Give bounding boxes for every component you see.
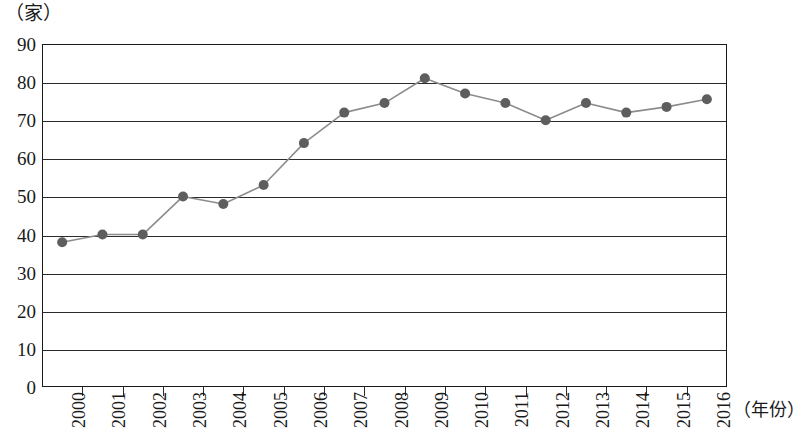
x-axis-tick-label: 2001 — [110, 392, 128, 428]
y-axis-tick-label: 60 — [0, 149, 36, 168]
plot-area — [42, 44, 727, 387]
x-axis-tick-label: 2014 — [634, 392, 652, 428]
y-axis-tick-label: 10 — [0, 339, 36, 358]
x-axis-tick-label: 2010 — [473, 392, 491, 428]
x-axis-tick-label: 2004 — [231, 392, 249, 428]
gridline — [43, 197, 726, 198]
x-axis-tick-label: 2012 — [554, 392, 572, 428]
x-axis-tick-label: 2011 — [513, 392, 531, 427]
x-axis-tick-label: 2005 — [272, 392, 290, 428]
gridline — [43, 83, 726, 84]
x-axis-tick-label: 2013 — [594, 392, 612, 428]
x-axis-tick-label: 2002 — [151, 392, 169, 428]
y-axis-tick-label: 70 — [0, 111, 36, 130]
x-axis-tick-label: 2000 — [70, 392, 88, 428]
gridline — [43, 312, 726, 313]
y-axis-tick-label: 30 — [0, 263, 36, 282]
x-axis-tick-label: 2003 — [191, 392, 209, 428]
gridline — [43, 159, 726, 160]
x-axis-tick-label: 2006 — [312, 392, 330, 428]
y-axis-tick-label: 50 — [0, 187, 36, 206]
y-axis-tick-label: 0 — [0, 378, 36, 397]
x-axis-tick-label: 2007 — [352, 392, 370, 428]
gridline — [43, 350, 726, 351]
y-axis-tick-label: 40 — [0, 225, 36, 244]
x-axis-unit-label: （年份） — [733, 400, 798, 420]
y-axis-tick-label: 20 — [0, 301, 36, 320]
y-axis-tick-label: 90 — [0, 35, 36, 54]
x-axis-tick-label: 2009 — [433, 392, 451, 428]
gridline — [43, 274, 726, 275]
y-axis-tick-labels: 0102030405060708090 — [0, 0, 36, 446]
gridline — [43, 236, 726, 237]
gridline — [43, 121, 726, 122]
x-axis-tick-label: 2016 — [715, 392, 733, 428]
x-axis-tick-label: 2015 — [675, 392, 693, 428]
y-axis-tick-label: 80 — [0, 73, 36, 92]
x-axis-tick-label: 2008 — [393, 392, 411, 428]
